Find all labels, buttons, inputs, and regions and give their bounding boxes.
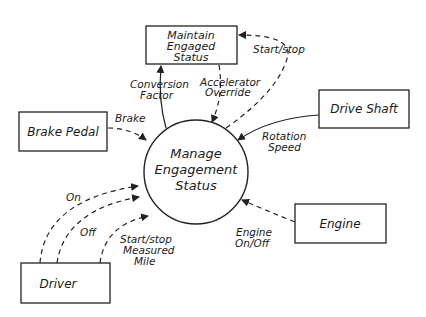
- process-manage-engagement-status: Manage Engagement Status: [144, 120, 248, 224]
- flow-label-start-stop-top: Start/stop: [253, 43, 305, 55]
- process-label-line-2: Engagement: [155, 162, 239, 177]
- drive-shaft-entity: Drive Shaft: [319, 90, 409, 128]
- flow-label-factor: Factor: [140, 89, 174, 101]
- engine-label: Engine: [319, 217, 360, 231]
- brake-pedal-label: Brake Pedal: [27, 125, 99, 139]
- flow-label-speed: Speed: [268, 141, 301, 153]
- flow-label-on: On: [66, 191, 81, 203]
- process-label-line-3: Status: [175, 178, 217, 193]
- process-label-line-1: Manage: [170, 146, 222, 161]
- flow-engine-on-off: [242, 200, 295, 222]
- drive-shaft-label: Drive Shaft: [330, 102, 399, 116]
- data-flow-diagram: Manage Engagement Status Maintain Engage…: [0, 0, 426, 317]
- driver-entity: Driver: [21, 263, 110, 303]
- maintain-engaged-status-box: Maintain Engaged Status: [146, 26, 237, 64]
- driver-label: Driver: [40, 277, 78, 291]
- flow-label-override: Override: [205, 86, 251, 98]
- flow-label-off: Off: [80, 226, 97, 238]
- flow-label-mile: Mile: [134, 255, 155, 267]
- flow-brake: [108, 128, 146, 140]
- engine-entity: Engine: [295, 204, 386, 243]
- flow-label-brake: Brake: [115, 112, 146, 124]
- brake-pedal-entity: Brake Pedal: [19, 112, 107, 151]
- flow-label-on-off: On/Off: [235, 237, 271, 249]
- maintain-label-line-3: Status: [173, 51, 208, 64]
